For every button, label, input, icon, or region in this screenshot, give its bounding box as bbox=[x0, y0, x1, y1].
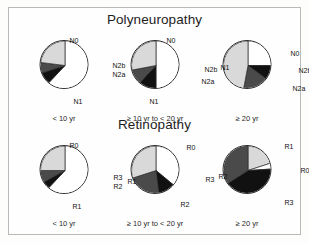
pie-slice-R1 bbox=[41, 146, 66, 171]
pie-svg bbox=[224, 146, 272, 194]
pie-slice-label-N0: N0 bbox=[167, 37, 176, 44]
pie-slice-N0 bbox=[248, 41, 272, 66]
pie-slice-label-R0: R0 bbox=[70, 142, 79, 149]
pie-caption: ≥ 20 yr bbox=[199, 219, 295, 228]
pie-cell-polyneuropathy-lt10: N0N2bN2aN1 < 10 yr bbox=[16, 34, 112, 124]
pie-slice-label-N1: N1 bbox=[150, 98, 159, 105]
pie-slice-label-R1: R1 bbox=[73, 203, 82, 210]
pie-slice-N0 bbox=[156, 41, 180, 89]
pie-wrap: R0R3R2R1 bbox=[131, 145, 180, 194]
pie-chart-retinopathy-mid bbox=[131, 145, 180, 194]
pie-slice-label-R1: R1 bbox=[128, 178, 137, 185]
pie-caption: ≥ 10 yr to < 20 yr bbox=[107, 114, 203, 123]
pie-caption: < 10 yr bbox=[16, 114, 112, 123]
pie-chart-retinopathy-lt10 bbox=[40, 145, 89, 194]
pie-chart-polyneuropathy-lt10 bbox=[40, 40, 89, 89]
pie-cell-retinopathy-mid: R0R3R2R1 ≥ 10 yr to < 20 yr bbox=[107, 139, 203, 229]
polyneuropathy-title: Polyneuropathy bbox=[0, 12, 309, 27]
pie-slice-label-N0: N0 bbox=[70, 37, 79, 44]
pie-cell-retinopathy-ge20: R1R0R3R2 ≥ 20 yr bbox=[199, 139, 295, 229]
pie-slice-label-N2a: N2a bbox=[293, 85, 306, 92]
pie-slice-N1 bbox=[132, 41, 157, 70]
pie-svg bbox=[132, 146, 180, 194]
pie-slice-N1 bbox=[41, 41, 65, 66]
pie-wrap: N0N2bN2aN1 bbox=[131, 40, 180, 89]
pie-slice-label-N1: N1 bbox=[221, 64, 230, 71]
pie-slice-label-N0: N0 bbox=[291, 50, 300, 57]
pie-slice-label-R2: R2 bbox=[181, 201, 190, 208]
figure-root: Polyneuropathy Retinopathy N0N2bN2aN1 < … bbox=[0, 0, 309, 243]
pie-cell-polyneuropathy-mid: N0N2bN2aN1 ≥ 10 yr to < 20 yr bbox=[107, 34, 203, 124]
pie-cell-polyneuropathy-ge20: N0N2bN2aN1 ≥ 20 yr bbox=[199, 34, 295, 124]
pie-wrap: R0R3R2R1 bbox=[40, 145, 89, 194]
pie-chart-retinopathy-ge20 bbox=[223, 145, 272, 194]
pie-wrap: N0N2bN2aN1 bbox=[40, 40, 89, 89]
pie-slice-label-N2b: N2b bbox=[299, 67, 310, 74]
pie-svg bbox=[132, 41, 180, 89]
pie-slice-label-R3: R3 bbox=[285, 199, 294, 206]
pie-wrap: N0N2bN2aN1 bbox=[223, 40, 272, 89]
pie-slice-label-R1: R1 bbox=[285, 143, 294, 150]
pie-slice-label-R2: R2 bbox=[219, 173, 228, 180]
pie-svg bbox=[224, 41, 272, 89]
pie-chart-polyneuropathy-ge20 bbox=[223, 40, 272, 89]
pie-wrap: R1R0R3R2 bbox=[223, 145, 272, 194]
pie-chart-polyneuropathy-mid bbox=[131, 40, 180, 89]
pie-svg bbox=[41, 146, 89, 194]
pie-cell-retinopathy-lt10: R0R3R2R1 < 10 yr bbox=[16, 139, 112, 229]
pie-slice-label-N1: N1 bbox=[74, 98, 83, 105]
pie-caption: ≥ 10 yr to < 20 yr bbox=[107, 219, 203, 228]
pie-caption: ≥ 20 yr bbox=[199, 114, 295, 123]
pie-caption: < 10 yr bbox=[16, 219, 112, 228]
pie-svg bbox=[41, 41, 89, 89]
pie-slice-label-R0: R0 bbox=[301, 167, 310, 174]
pie-slice-label-R0: R0 bbox=[187, 144, 196, 151]
